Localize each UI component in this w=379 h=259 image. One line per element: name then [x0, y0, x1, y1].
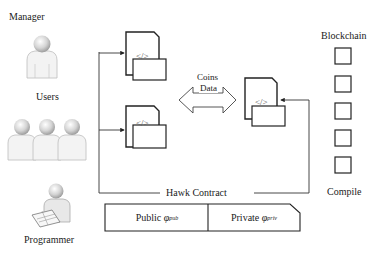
exchange-label-data: Data [199, 83, 218, 93]
block-2 [335, 76, 351, 92]
private-label: Private [231, 212, 259, 223]
block-5 [335, 157, 351, 173]
exchange-label-coins: Coins [197, 72, 218, 82]
blockchain-blocks [335, 48, 351, 173]
phi-pub-subscript: pub [169, 215, 178, 221]
manager-icon [27, 36, 57, 79]
private-section: Private φpriv [209, 204, 299, 231]
users-label: Users [36, 91, 59, 102]
hawk-contract-label: Hawk Contract [166, 187, 227, 198]
public-section: Public φpub [106, 204, 208, 231]
code-glyph-2: </> [136, 118, 149, 128]
compile-label: Compile [327, 186, 361, 197]
blockchain-label: Blockchain [321, 30, 367, 41]
block-4 [335, 130, 351, 146]
programmer-label: Programmer [24, 234, 74, 245]
code-glyph-3: </> [255, 97, 268, 107]
public-label: Public [136, 212, 162, 223]
block-1 [335, 48, 351, 64]
users-icon [8, 119, 86, 160]
code-glyph-1: </> [136, 51, 149, 61]
programmer-icon [32, 184, 70, 228]
manager-label: Manager [9, 11, 45, 22]
block-3 [335, 103, 351, 119]
phi-priv-subscript: priv [267, 215, 277, 221]
